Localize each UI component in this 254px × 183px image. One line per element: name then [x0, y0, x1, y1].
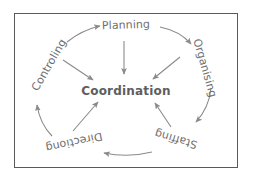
- spoke-controling-to-center: [63, 60, 93, 80]
- spoke-staffing-to-center: [155, 103, 171, 127]
- spoke-organising-to-center: [153, 57, 180, 79]
- arc-staffing-to-directiong: [104, 152, 152, 155]
- arc-directiong-to-controling: [37, 105, 52, 136]
- arc-controling-to-planning: [67, 26, 100, 42]
- arc-planning-to-organising: [160, 27, 191, 44]
- center-label-coordination: Coordination: [81, 84, 171, 98]
- node-label-planning: Planning: [102, 18, 151, 33]
- coordination-diagram-figure: Planning Organising Staffing Directiong …: [0, 0, 254, 183]
- spoke-directiong-to-center: [73, 102, 98, 131]
